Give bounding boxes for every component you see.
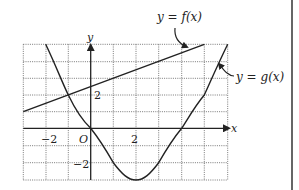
f-callout-arrow [175, 28, 187, 47]
x-tick-pos2: 2 [131, 133, 138, 146]
g-label: y = g(x) [235, 70, 285, 84]
y-tick-pos2: 2 [94, 89, 101, 102]
function-graph-diagram: y = f(x) y = g(x) y x O −2 2 2 −2 [0, 0, 299, 190]
x-tick-neg2: −2 [41, 133, 57, 146]
origin-label: O [79, 133, 88, 146]
x-axis-label: x [231, 122, 238, 135]
grid [23, 44, 227, 180]
g-callout-arrow [219, 64, 234, 76]
y-axis-label: y [86, 31, 94, 44]
y-tick-neg2: −2 [73, 158, 89, 171]
f-label: y = f(x) [156, 10, 202, 24]
